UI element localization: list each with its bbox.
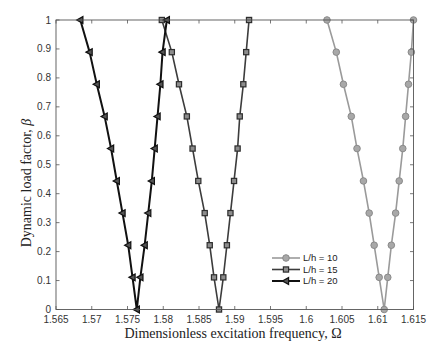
legend-circle-marker (283, 255, 290, 262)
y-tick-label: 0.9 (37, 43, 51, 54)
square-marker (169, 50, 174, 55)
legend-square-marker (283, 267, 288, 272)
circle-marker (384, 274, 391, 281)
square-marker (237, 114, 242, 119)
y-tick-label: 0.2 (37, 246, 51, 257)
circle-marker (340, 81, 347, 88)
legend-label: L/h = 10 (303, 252, 338, 263)
circle-marker (376, 274, 383, 281)
square-marker (235, 146, 240, 151)
circle-marker (371, 242, 378, 249)
x-axis-title-text: Dimensionless excitation frequency, (124, 326, 331, 341)
y-tick-label: 0.7 (37, 101, 51, 112)
y-tick-label: 0.3 (37, 217, 51, 228)
x-tick-label: 1.58 (154, 314, 174, 325)
y-axis-title-text: Dynamic load factor, (19, 126, 34, 248)
circle-marker (402, 113, 409, 120)
plot-area (56, 17, 417, 313)
x-tick-label: 1.59 (225, 314, 245, 325)
circle-marker (348, 113, 355, 120)
y-tick-label: 0.1 (37, 275, 51, 286)
circle-marker (405, 81, 412, 88)
x-tick-label: 1.605 (329, 314, 354, 325)
square-marker (207, 243, 212, 248)
x-tick-label: 1.61 (368, 314, 388, 325)
circle-marker (399, 145, 406, 152)
y-axis-title: Dynamic load factor, β (19, 119, 34, 248)
square-marker (190, 146, 195, 151)
square-marker (244, 50, 249, 55)
square-marker (211, 275, 216, 280)
square-marker (231, 178, 236, 183)
y-tick-label: 0 (45, 304, 51, 315)
y-tick-label: 0.6 (37, 130, 51, 141)
square-marker (228, 210, 233, 215)
y-tick-label: 1 (45, 15, 51, 26)
x-tick-labels: 1.5651.571.5751.581.5851.591.5951.61.605… (43, 314, 426, 325)
y-tick-label: 0.8 (37, 72, 51, 83)
chart-figure: 1.5651.571.5751.581.5851.591.5951.61.605… (0, 0, 439, 357)
x-tick-label: 1.565 (43, 314, 68, 325)
legend-label: L/h = 20 (303, 275, 338, 286)
x-tick-label: 1.575 (115, 314, 140, 325)
circle-marker (366, 210, 373, 217)
circle-marker (392, 210, 399, 217)
square-marker (176, 82, 181, 87)
x-tick-label: 1.585 (186, 314, 211, 325)
circle-marker (396, 178, 403, 185)
square-marker (241, 82, 246, 87)
x-tick-label: 1.615 (401, 314, 426, 325)
y-tick-label: 0.5 (37, 159, 51, 170)
circle-marker (360, 178, 367, 185)
circle-marker (354, 145, 361, 152)
x-tick-label: 1.57 (82, 314, 102, 325)
y-axis-symbol: β (19, 119, 34, 127)
x-tick-label: 1.6 (299, 314, 313, 325)
legend: L/h = 10L/h = 15L/h = 20 (272, 252, 338, 286)
legend-label: L/h = 15 (303, 264, 338, 275)
square-marker (184, 114, 189, 119)
square-marker (202, 210, 207, 215)
x-tick-label: 1.595 (258, 314, 283, 325)
square-marker (224, 243, 229, 248)
y-tick-label: 0.4 (37, 188, 51, 199)
square-marker (221, 275, 226, 280)
square-marker (196, 178, 201, 183)
x-axis-symbol: Ω (331, 326, 341, 341)
circle-marker (388, 242, 395, 249)
x-axis-title: Dimensionless excitation frequency, Ω (124, 326, 341, 341)
circle-marker (333, 49, 340, 56)
